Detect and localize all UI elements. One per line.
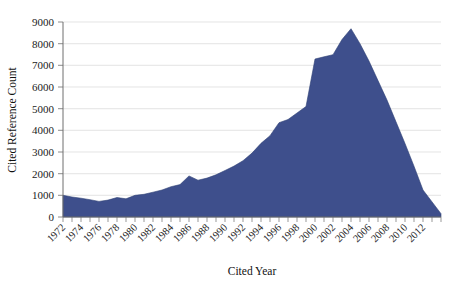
x-tick-label: 1974 — [63, 221, 86, 244]
y-tick-label: 7000 — [32, 59, 55, 71]
y-tick-label: 5000 — [32, 103, 55, 115]
x-tick-label: 1988 — [189, 222, 212, 245]
x-axis-ticks — [63, 217, 441, 222]
x-axis-tick-labels: 1972 1974 1976 1978 1980 1982 1984 1986 … — [45, 221, 428, 244]
x-tick-label: 2010 — [387, 222, 410, 245]
x-tick-label: 1984 — [153, 221, 176, 244]
x-tick-label: 1992 — [225, 222, 248, 245]
y-axis-ticks — [58, 22, 63, 217]
x-tick-label: 1978 — [99, 222, 122, 245]
x-tick-label: 1998 — [279, 222, 302, 245]
y-axis-title: Cited Reference Count — [6, 67, 18, 173]
y-tick-label: 6000 — [32, 81, 55, 93]
x-tick-label: 1990 — [207, 222, 230, 245]
x-tick-label: 2012 — [405, 222, 428, 245]
y-tick-label: 0 — [49, 211, 55, 223]
y-tick-label: 2000 — [32, 168, 55, 180]
y-tick-label: 3000 — [32, 146, 55, 158]
y-tick-label: 8000 — [32, 38, 55, 50]
x-tick-label: 2002 — [315, 222, 338, 245]
x-tick-label: 1982 — [135, 222, 158, 245]
x-tick-label: 1994 — [243, 221, 266, 244]
x-tick-label: 1996 — [261, 222, 284, 245]
x-tick-label: 2006 — [351, 222, 374, 245]
y-tick-label: 9000 — [32, 16, 55, 28]
x-tick-label: 2008 — [369, 222, 392, 245]
x-tick-label: 1986 — [171, 222, 194, 245]
x-tick-label: 1976 — [81, 222, 104, 245]
y-tick-label: 4000 — [32, 124, 55, 136]
x-axis-title: Cited Year — [228, 265, 277, 277]
y-tick-label: 1000 — [32, 189, 55, 201]
x-tick-label: 2004 — [333, 221, 356, 244]
x-tick-label: 1980 — [117, 222, 140, 245]
x-tick-label: 2000 — [297, 222, 320, 245]
chart-figure: 0 1000 2000 3000 4000 5000 6000 7000 800… — [0, 0, 458, 284]
x-tick-label: 1972 — [45, 222, 68, 245]
cited-reference-count-area-chart: 0 1000 2000 3000 4000 5000 6000 7000 800… — [0, 0, 458, 284]
y-axis-tick-labels: 0 1000 2000 3000 4000 5000 6000 7000 800… — [32, 16, 55, 223]
